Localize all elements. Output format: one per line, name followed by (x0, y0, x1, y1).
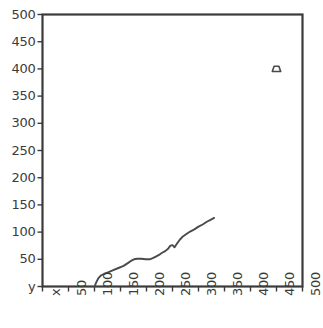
x-tick-label: 350 (230, 272, 245, 296)
y-tick-label: 400 (12, 61, 36, 76)
x-tick-label: 200 (152, 272, 167, 296)
chart-container: y50100150200250300350400450500 x50100150… (0, 0, 319, 328)
y-axis-label: y (28, 279, 35, 294)
x-tick-label: 300 (204, 272, 219, 296)
data-point-marker (272, 66, 280, 71)
x-tick-label: 50 (74, 280, 89, 296)
x-axis-label: x (48, 288, 63, 295)
data-series (95, 66, 281, 286)
y-tick-label: 250 (12, 143, 36, 158)
y-tick-label: 50 (20, 251, 36, 266)
x-tick-label: 500 (308, 272, 323, 296)
y-tick-label: 450 (12, 34, 36, 49)
y-tick-label: 350 (12, 88, 36, 103)
y-tick-label: 200 (12, 170, 36, 185)
x-tick-label: 100 (100, 272, 115, 296)
y-tick-label: 500 (12, 7, 36, 22)
y-tick-label: 150 (12, 197, 36, 212)
y-tick-label: 100 (12, 224, 36, 239)
x-tick-label: 450 (282, 272, 297, 296)
y-tick-label: 300 (12, 115, 36, 130)
x-tick-label: 150 (126, 272, 141, 296)
x-tick-label: 400 (256, 272, 271, 296)
x-tick-label: 250 (178, 272, 193, 296)
